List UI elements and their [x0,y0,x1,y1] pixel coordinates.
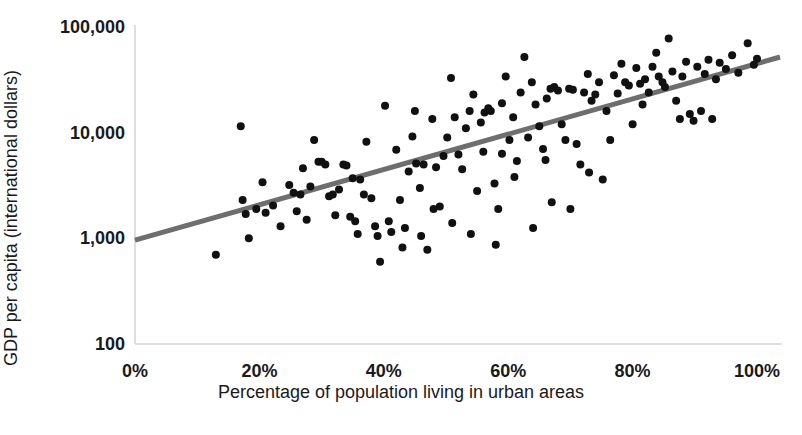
data-point [542,156,550,164]
data-point [381,102,389,110]
data-point [645,88,653,96]
data-point [716,59,724,67]
x-tick-label: 20% [241,362,277,380]
data-point [632,64,640,72]
data-point [535,122,543,130]
x-tick-label: 80% [615,362,651,380]
data-point [676,115,684,123]
data-point [566,205,574,213]
data-point [451,113,459,121]
data-point [321,160,329,168]
x-tick-label: 0% [122,362,148,380]
data-point [625,81,633,89]
data-point [242,210,250,218]
data-point [569,86,577,94]
data-point [335,185,343,193]
data-point [649,63,657,71]
data-point [303,216,311,224]
data-point [492,241,500,249]
data-point [591,90,599,98]
data-point [529,224,537,232]
data-point [396,196,404,204]
data-points [212,34,761,265]
data-point [306,182,314,190]
data-point [362,138,370,146]
data-point [269,201,277,209]
data-point [494,205,502,213]
data-point [405,167,413,175]
data-point [524,134,532,142]
data-point [428,115,436,123]
data-point [639,100,647,108]
data-point [672,97,680,105]
data-point [458,165,466,173]
data-point [617,60,625,68]
data-point [212,251,220,259]
data-point [420,160,428,168]
data-point [661,83,669,91]
data-point [342,161,350,169]
data-point [447,74,455,82]
data-point [376,258,384,266]
data-point [576,160,584,168]
data-point [416,184,424,192]
data-point [329,190,337,198]
data-point [252,205,260,213]
data-point [532,100,540,108]
data-point [473,187,481,195]
scatter-chart: 1001,00010,000100,000 0%20%40%60%80%100%… [0,0,802,435]
data-point [491,180,499,188]
x-tick-label: 100% [734,362,780,380]
data-point [573,140,581,148]
data-point [753,55,761,63]
data-point [290,189,298,197]
data-point [690,117,698,125]
data-point [469,90,477,98]
data-point [668,67,676,75]
data-point [704,56,712,64]
data-point [411,107,419,115]
data-point [678,73,686,81]
data-point [354,230,362,238]
data-point [697,107,705,115]
data-point [520,53,528,61]
data-point [467,230,475,238]
data-point [356,176,364,184]
data-point [505,136,513,144]
data-point [548,198,556,206]
y-axis-title: GDP per capita (international dollars) [2,70,20,366]
data-point [259,178,267,186]
data-point [479,148,487,156]
data-point [237,122,245,130]
data-point [487,107,495,115]
data-point [728,51,736,59]
x-tick-label: 60% [490,362,526,380]
data-point [744,39,752,47]
data-point [277,222,285,230]
data-point [539,145,547,153]
data-point [412,160,420,168]
data-point [432,163,440,171]
data-point [239,196,247,204]
data-point [310,136,318,144]
data-point [510,173,518,181]
data-point [602,107,610,115]
data-point [682,58,690,66]
data-point [734,69,742,77]
trendline [135,57,780,240]
data-point [296,190,304,198]
data-point [285,181,293,189]
y-tick-label: 100,000 [0,18,125,36]
data-point [543,95,551,103]
data-point [351,217,359,225]
data-point [722,65,730,73]
axis-lines [135,25,782,344]
data-point [498,150,506,158]
data-point [385,217,393,225]
data-point [423,246,431,254]
data-point [299,164,307,172]
data-point [595,78,603,86]
data-point [398,243,406,251]
data-point [652,49,660,57]
data-point [614,89,622,97]
